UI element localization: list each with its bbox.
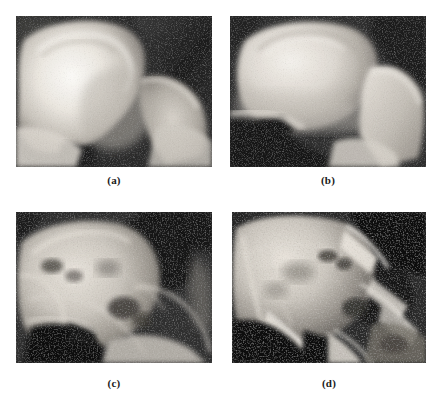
radiograph-panel-a bbox=[16, 16, 212, 167]
panel-caption-b: (b) bbox=[230, 174, 426, 187]
radiograph-panel-b bbox=[230, 16, 426, 167]
radiograph-panel-c bbox=[16, 212, 212, 363]
radiograph-image-d bbox=[232, 212, 426, 363]
radiograph-image-a bbox=[16, 16, 212, 167]
figure-sheet: (a) bbox=[0, 0, 435, 406]
panel-caption-c: (c) bbox=[16, 377, 212, 390]
radiograph-image-c bbox=[16, 212, 212, 363]
panel-caption-d: (d) bbox=[232, 377, 426, 390]
radiograph-image-b bbox=[230, 16, 426, 167]
radiograph-panel-d bbox=[232, 212, 426, 363]
panel-caption-a: (a) bbox=[16, 174, 212, 187]
